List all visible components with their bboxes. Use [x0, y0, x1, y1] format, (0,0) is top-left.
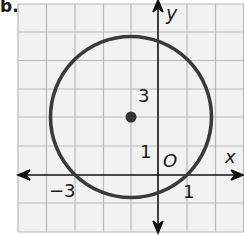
- x-axis-label: x: [224, 146, 236, 167]
- x-tick-label-1: 1: [183, 181, 194, 202]
- problem-label: b.: [0, 0, 19, 16]
- coordinate-plane: b. y x O 3 1 −3 1: [0, 0, 244, 235]
- y-tick-label-1: 1: [140, 141, 151, 162]
- x-tick-label-neg3: −3: [49, 180, 76, 201]
- circle-center-point: [126, 112, 137, 123]
- origin-label: O: [163, 150, 177, 171]
- y-tick-label-3: 3: [138, 85, 149, 106]
- y-axis-label: y: [165, 2, 178, 24]
